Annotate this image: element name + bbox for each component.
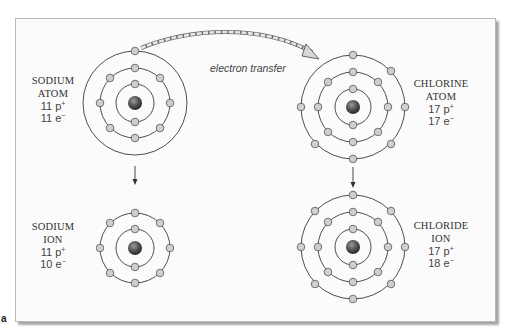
panel-letter: a: [1, 313, 7, 324]
sodium-ion-nucleus: [128, 241, 142, 255]
label-type: ATOM: [20, 88, 86, 101]
sodium-atom-label: SODIUM ATOM 11 p+ 11 e−: [20, 75, 86, 124]
chloride-ion-label: CHLORIDE ION 17 p+ 18 e−: [405, 220, 477, 269]
sodium-atom-electrons: [96, 47, 174, 142]
electron-count: 18 e−: [405, 257, 477, 269]
proton-count: 17 p+: [405, 103, 477, 115]
electron-count: 11 e−: [20, 112, 86, 124]
chlorine-atom-nucleus: [346, 100, 360, 114]
proton-count: 11 p+: [20, 246, 86, 258]
label-name: CHLORINE: [405, 78, 477, 91]
chlorine-atom-label: CHLORINE ATOM 17 p+ 17 e−: [405, 78, 477, 127]
label-type: ATOM: [405, 91, 477, 104]
label-type: ION: [20, 234, 86, 247]
electron-transfer-caption: electron transfer: [210, 62, 286, 74]
electron-transfer-arrow: [141, 32, 319, 59]
label-type: ION: [405, 233, 477, 246]
atom-diagram: [0, 0, 509, 335]
down-arrow-sodium: [133, 166, 138, 185]
label-name: SODIUM: [20, 75, 86, 88]
label-name: SODIUM: [20, 221, 86, 234]
chloride-ion-nucleus: [346, 240, 360, 254]
proton-count: 11 p+: [20, 100, 86, 112]
down-arrow-chlorine: [351, 167, 356, 188]
proton-count: 17 p+: [405, 245, 477, 257]
sodium-ion-label: SODIUM ION 11 p+ 10 e−: [20, 221, 86, 270]
label-name: CHLORIDE: [405, 220, 477, 233]
electron-count: 10 e−: [20, 258, 86, 270]
electron-count: 17 e−: [405, 115, 477, 127]
sodium-atom-nucleus: [128, 96, 142, 110]
